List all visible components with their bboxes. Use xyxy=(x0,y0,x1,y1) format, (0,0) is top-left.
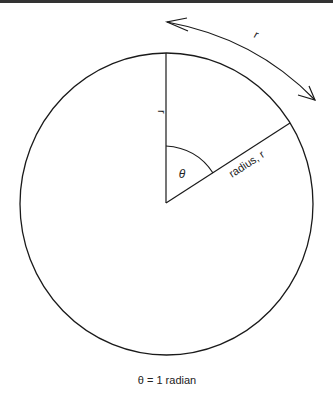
side-r-label: r xyxy=(156,110,168,114)
theta-label: θ xyxy=(179,167,186,181)
arc-length-arrow xyxy=(167,22,315,100)
angle-arc xyxy=(166,146,213,173)
radius-label: radius, r xyxy=(227,148,267,180)
top-rule xyxy=(0,0,333,3)
arc-r-label: r xyxy=(252,28,261,40)
radian-diagram: θ radius, r r r θ = 1 radian xyxy=(0,0,333,393)
caption: θ = 1 radian xyxy=(138,374,196,386)
radius-line xyxy=(166,123,290,203)
diagram-svg: θ radius, r r r θ = 1 radian xyxy=(0,0,333,393)
